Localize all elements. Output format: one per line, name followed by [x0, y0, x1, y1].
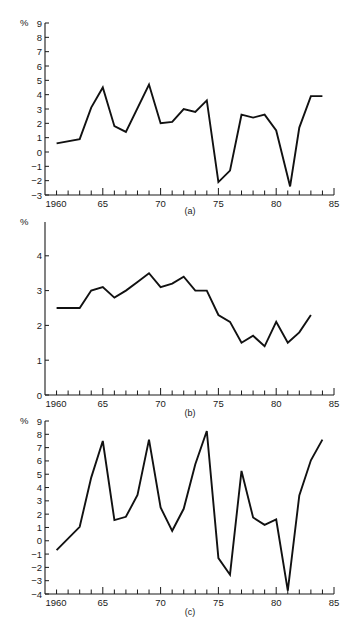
panel-caption: (b)	[185, 408, 196, 418]
data-series-line	[57, 85, 323, 187]
figure: 9876543210−1−2−3%19606570758085(a) 43210…	[0, 0, 363, 632]
x-tick-label: 70	[155, 398, 166, 409]
x-tick-label: 75	[213, 398, 224, 409]
y-tick-label: 0	[37, 147, 42, 158]
y-tick-label: 5	[37, 75, 42, 86]
x-tick-label: 75	[213, 198, 224, 209]
y-tick-label: −3	[31, 190, 42, 201]
y-tick-label: 8	[37, 32, 42, 43]
y-tick-label: 2	[37, 509, 42, 520]
y-tick-label: 2	[37, 320, 42, 331]
y-tick-label: 5	[37, 469, 42, 480]
y-tick-label: 6	[37, 455, 42, 466]
x-tick-label: 85	[329, 198, 340, 209]
y-tick-label: −4	[31, 589, 42, 600]
y-tick-label: 9	[37, 416, 42, 427]
chart-panel-a: 9876543210−1−2−3%19606570758085(a)	[20, 17, 339, 216]
y-tick-label: 1	[37, 132, 42, 143]
chart-panel-c: 9876543210−1−2−3−4%19606570758085(c)	[20, 415, 339, 617]
y-tick-label: 4	[37, 482, 42, 493]
x-tick-label: 80	[271, 198, 282, 209]
x-tick-label: 65	[98, 198, 109, 209]
x-tick-label: 85	[329, 398, 340, 409]
y-tick-label: −1	[31, 549, 42, 560]
y-tick-label: 4	[37, 250, 42, 261]
y-tick-label: −2	[31, 562, 42, 573]
y-tick-label: −2	[31, 175, 42, 186]
y-tick-label: 3	[37, 104, 42, 115]
y-tick-label: 8	[37, 429, 42, 440]
x-tick-label: 85	[329, 597, 340, 608]
y-unit-label: %	[20, 415, 29, 426]
x-tick-label: 65	[98, 597, 109, 608]
x-tick-label: 80	[271, 398, 282, 409]
x-tick-label: 70	[155, 597, 166, 608]
x-tick-label: 1960	[45, 398, 66, 409]
data-series-line	[57, 431, 323, 591]
y-tick-label: 0	[37, 390, 42, 401]
x-tick-label: 75	[213, 597, 224, 608]
y-tick-label: 1	[37, 355, 42, 366]
y-tick-label: 9	[37, 18, 42, 29]
y-tick-label: 4	[37, 89, 42, 100]
y-tick-label: 1	[37, 522, 42, 533]
y-tick-label: 6	[37, 61, 42, 72]
y-tick-label: 3	[37, 495, 42, 506]
y-unit-label: %	[20, 216, 29, 227]
y-tick-label: −3	[31, 575, 42, 586]
panel-caption: (a)	[185, 206, 196, 216]
data-series-line	[57, 273, 311, 346]
y-tick-label: 2	[37, 118, 42, 129]
y-tick-label: −1	[31, 161, 42, 172]
x-tick-label: 1960	[45, 597, 66, 608]
chart-panel-b: 43210%19606570758085(b)	[20, 216, 339, 418]
y-tick-label: 7	[37, 46, 42, 57]
x-tick-label: 65	[98, 398, 109, 409]
x-tick-label: 1960	[45, 198, 66, 209]
x-tick-label: 70	[155, 198, 166, 209]
y-tick-label: 7	[37, 442, 42, 453]
x-tick-label: 80	[271, 597, 282, 608]
y-tick-label: 0	[37, 535, 42, 546]
y-unit-label: %	[20, 17, 29, 28]
panel-caption: (c)	[185, 607, 196, 617]
y-tick-label: 3	[37, 285, 42, 296]
